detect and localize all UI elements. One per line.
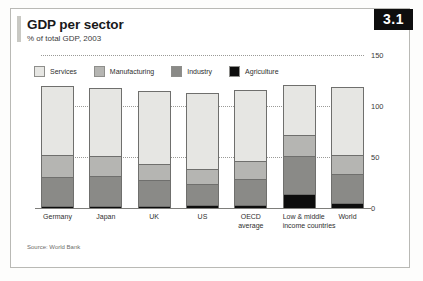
bar-segment-industry xyxy=(331,175,364,204)
bar-segment-manufacturing xyxy=(331,156,364,175)
bar-column[interactable] xyxy=(186,55,219,208)
bar-segment-manufacturing xyxy=(138,165,171,181)
bar-segment-manufacturing xyxy=(186,170,219,184)
bar-segment-manufacturing xyxy=(234,162,267,180)
figure-number-badge: 3.1 xyxy=(374,9,413,30)
bar-segment-manufacturing xyxy=(283,136,316,157)
bar-column[interactable] xyxy=(41,55,74,208)
x-axis-label-line: US xyxy=(186,212,219,221)
x-axis-label: Japan xyxy=(89,212,122,230)
x-axis-label-line: Japan xyxy=(89,212,122,221)
bar-segment-industry xyxy=(41,178,74,207)
bar-segment-industry xyxy=(186,185,219,206)
bar-segment-industry xyxy=(89,177,122,207)
plot-area: 150100500 xyxy=(41,55,364,208)
x-axis-labels: GermanyJapanUKUSOECDaverageLow & middlei… xyxy=(41,212,364,230)
title-accent-bar xyxy=(17,16,21,42)
x-axis-label: Germany xyxy=(41,212,74,230)
bar-column[interactable] xyxy=(138,55,171,208)
bar-segment-industry xyxy=(234,180,267,206)
y-axis-tick-50: 50 xyxy=(371,153,379,162)
bar-column[interactable] xyxy=(89,55,122,208)
bar-group xyxy=(41,55,364,208)
x-axis-label: Low & middleincome countries xyxy=(283,212,316,230)
bar-segment-services xyxy=(234,90,267,162)
x-axis-label: UK xyxy=(138,212,171,230)
bar-column[interactable] xyxy=(234,55,267,208)
bar-segment-services xyxy=(331,87,364,156)
y-axis-tick-150: 150 xyxy=(371,51,384,60)
x-axis-label: OECDaverage xyxy=(234,212,267,230)
x-axis-label-line: income countries xyxy=(283,221,316,230)
x-axis-label-line: Germany xyxy=(41,212,74,221)
x-axis-label: US xyxy=(186,212,219,230)
x-axis-label-line: Low & middle xyxy=(283,212,316,221)
x-axis-label-line: World xyxy=(331,212,364,221)
source-note: Source: World Bank xyxy=(27,244,80,250)
bar-segment-manufacturing xyxy=(89,157,122,177)
bar-segment-industry xyxy=(138,181,171,207)
chart-subtitle: % of total GDP, 2003 xyxy=(27,34,101,43)
x-axis-label-line: average xyxy=(234,221,267,230)
x-axis-label-line: OECD xyxy=(234,212,267,221)
bar-segment-services xyxy=(89,88,122,157)
bar-segment-services xyxy=(138,91,171,165)
bar-segment-manufacturing xyxy=(41,156,74,178)
x-axis-label-line: UK xyxy=(138,212,171,221)
bar-segment-services xyxy=(41,86,74,156)
figure-panel: 3.1 GDP per sector % of total GDP, 2003 … xyxy=(0,0,423,281)
bar-segment-agriculture xyxy=(283,195,316,208)
figure-number: 3.1 xyxy=(383,11,404,27)
y-axis-tick-100: 100 xyxy=(371,102,384,111)
bar-segment-services xyxy=(283,85,316,136)
x-axis-label: World xyxy=(331,212,364,230)
x-axis-line xyxy=(35,208,371,209)
bar-segment-services xyxy=(186,93,219,171)
bar-column[interactable] xyxy=(331,55,364,208)
bar-column[interactable] xyxy=(283,55,316,208)
chart-title: GDP per sector xyxy=(27,17,124,32)
y-axis-tick-0: 0 xyxy=(371,204,375,213)
bar-segment-industry xyxy=(283,157,316,195)
